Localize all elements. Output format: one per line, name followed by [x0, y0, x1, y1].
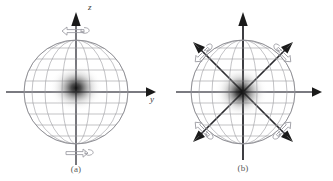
rotation-arrow-bottom-a	[66, 149, 93, 157]
figure-root: z y	[0, 0, 333, 181]
z-axis-label-a: z	[88, 2, 92, 12]
y-axis-label-a: y	[150, 94, 154, 104]
panel-b: z y	[167, 0, 333, 181]
panel-a: z y	[0, 0, 167, 181]
caption-panel-b: (b)	[223, 163, 263, 173]
panel-b-drawing	[167, 0, 333, 181]
probability-density-blob-b	[214, 66, 268, 118]
panel-a-drawing	[0, 0, 167, 181]
probability-density-blob-a	[49, 64, 103, 112]
caption-panel-a: (a)	[56, 164, 96, 174]
